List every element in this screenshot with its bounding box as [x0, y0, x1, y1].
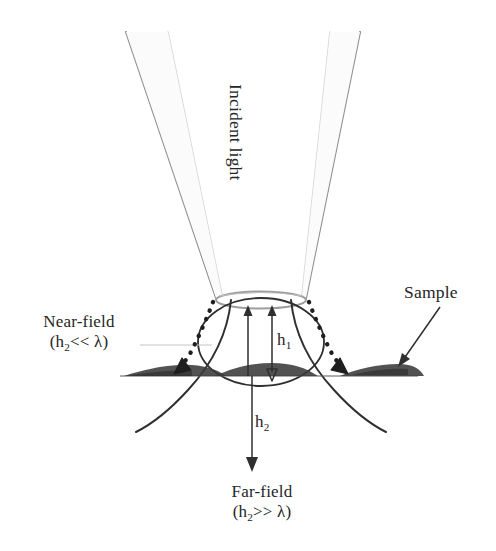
far-field-close-paren: )	[285, 502, 291, 521]
near-field-relation: <<	[70, 332, 94, 351]
evanescent-arrow-right	[309, 302, 348, 374]
h1-base: h	[277, 330, 286, 349]
far-field-relation: >>	[253, 502, 277, 521]
far-field-open-paren: (h	[233, 502, 248, 521]
h2-base: h	[255, 412, 264, 431]
label-sample: Sample	[404, 282, 458, 303]
h1-subscript: 1	[286, 339, 292, 351]
label-near-field: Near-field (h2<< λ)	[13, 312, 145, 354]
evanescent-arrow-left	[174, 302, 213, 374]
near-field-open-paren: (h	[50, 332, 65, 351]
sample-pointer-arrow	[398, 307, 440, 367]
label-incident-light: Incident light	[225, 84, 246, 181]
h1-arrow-right	[267, 305, 277, 381]
nsom-schematic-drawing	[0, 0, 496, 551]
near-field-condition: (h2<< λ)	[13, 332, 145, 354]
label-h1: h1	[277, 330, 291, 352]
near-field-title: Near-field	[13, 312, 145, 332]
near-field-close-paren: )	[102, 332, 108, 351]
h2-subscript: 2	[264, 421, 270, 433]
label-far-field: Far-field (h2>> λ)	[198, 482, 326, 524]
label-h2: h2	[255, 412, 269, 434]
far-field-title: Far-field	[198, 482, 326, 502]
far-field-condition: (h2>> λ)	[198, 502, 326, 524]
figure-root: Incident light Near-field (h2<< λ) Far-f…	[0, 0, 496, 551]
